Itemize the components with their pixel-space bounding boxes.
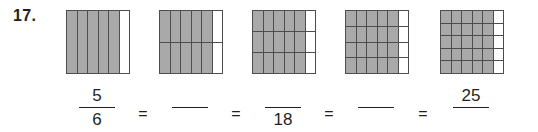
unshaded-cell: [212, 43, 223, 74]
shaded-cell: [441, 49, 451, 61]
shaded-cell: [441, 24, 451, 36]
shaded-cell: [170, 11, 181, 42]
shaded-cell: [387, 11, 398, 26]
shaded-cell: [461, 24, 472, 36]
fraction-4: [355, 86, 397, 130]
shaded-cell: [284, 53, 295, 73]
shaded-cell: [472, 11, 483, 23]
fraction-3-denominator[interactable]: 18: [262, 110, 304, 130]
fraction-5-denominator[interactable]: [450, 110, 492, 130]
figure-row-band: [346, 42, 408, 58]
fraction-2-numerator[interactable]: [169, 86, 211, 106]
figure-row-band: [441, 11, 503, 23]
shaded-cell: [366, 11, 377, 26]
figure-row-band: [441, 23, 503, 36]
shaded-cell: [387, 58, 398, 73]
unshaded-cell: [398, 58, 409, 73]
shaded-cell: [451, 61, 462, 73]
fraction-1-denominator[interactable]: 6: [76, 110, 118, 130]
shaded-cell: [356, 27, 367, 42]
fraction-2-bar: [172, 107, 208, 108]
figure-row-band: [253, 52, 315, 73]
figure-row-band: [441, 35, 503, 48]
shaded-cell: [482, 36, 493, 48]
shaded-cell: [441, 11, 451, 23]
shaded-cell: [377, 27, 388, 42]
shaded-cell: [366, 27, 377, 42]
unshaded-cell: [119, 11, 130, 73]
figure-row-band: [441, 48, 503, 61]
unshaded-cell: [305, 53, 316, 73]
unshaded-cell: [305, 32, 316, 52]
shaded-cell: [253, 53, 263, 73]
shaded-cell: [482, 49, 493, 61]
figure-eighteenths: [252, 10, 316, 74]
shaded-cell: [472, 49, 483, 61]
shaded-cell: [377, 58, 388, 73]
equation-row: 561825====: [0, 84, 538, 132]
figure-row-band: [441, 60, 503, 73]
shaded-cell: [87, 11, 98, 73]
shaded-cell: [346, 43, 356, 58]
figure-thirtieths: [440, 10, 504, 74]
shaded-cell: [160, 11, 170, 42]
shaded-cell: [356, 43, 367, 58]
figure-row-band: [346, 57, 408, 73]
shaded-cell: [377, 43, 388, 58]
figure-row-band: [67, 11, 129, 73]
fraction-4-bar: [358, 107, 394, 108]
shaded-cell: [98, 11, 109, 73]
unshaded-cell: [493, 24, 504, 36]
fraction-4-denominator[interactable]: [355, 110, 397, 130]
shaded-cell: [294, 11, 305, 31]
fraction-5: 25: [450, 86, 492, 130]
shaded-cell: [482, 24, 493, 36]
shaded-cell: [451, 36, 462, 48]
equals-1: =: [134, 106, 152, 122]
shaded-cell: [284, 11, 295, 31]
shaded-cell: [284, 32, 295, 52]
fraction-4-numerator[interactable]: [355, 86, 397, 106]
shaded-cell: [482, 61, 493, 73]
shaded-cell: [451, 49, 462, 61]
figure-twentyfourths: [345, 10, 409, 74]
shaded-cell: [346, 11, 356, 26]
unshaded-cell: [493, 61, 504, 73]
shaded-cell: [451, 11, 462, 23]
shaded-cell: [273, 53, 284, 73]
shaded-cell: [387, 27, 398, 42]
shaded-cell: [366, 43, 377, 58]
unshaded-cell: [493, 11, 504, 23]
shaded-cell: [273, 11, 284, 31]
shaded-cell: [201, 43, 212, 74]
shaded-cell: [263, 11, 274, 31]
unshaded-cell: [305, 11, 316, 31]
fraction-5-numerator[interactable]: 25: [450, 86, 492, 106]
figure-row-band: [346, 26, 408, 42]
fraction-2: [169, 86, 211, 130]
shaded-cell: [346, 27, 356, 42]
shaded-cell: [461, 36, 472, 48]
unshaded-cell: [398, 27, 409, 42]
fraction-5-bar: [453, 107, 489, 108]
fraction-2-denominator[interactable]: [169, 110, 211, 130]
unshaded-cell: [493, 36, 504, 48]
shaded-cell: [461, 11, 472, 23]
shaded-cell: [273, 32, 284, 52]
shaded-cell: [482, 11, 493, 23]
shaded-cell: [472, 24, 483, 36]
shaded-cell: [180, 43, 191, 74]
fraction-1-bar: [79, 107, 115, 108]
fraction-1-numerator[interactable]: 5: [76, 86, 118, 106]
unshaded-cell: [212, 11, 223, 42]
shaded-cell: [356, 11, 367, 26]
fraction-3-numerator[interactable]: [262, 86, 304, 106]
shaded-cell: [472, 61, 483, 73]
figure-row-band: [253, 31, 315, 52]
unshaded-cell: [398, 43, 409, 58]
shaded-cell: [253, 11, 263, 31]
equals-3: =: [320, 106, 338, 122]
shaded-cell: [191, 43, 202, 74]
fraction-3: 18: [262, 86, 304, 130]
shaded-cell: [170, 43, 181, 74]
